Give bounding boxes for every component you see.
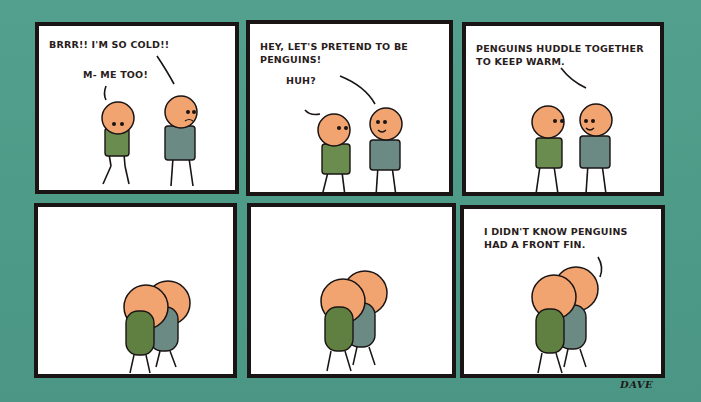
comic-page: BRRR!! I'M SO COLD!! M- ME TOO! HEY, LET… bbox=[0, 0, 701, 402]
panel-2-speech-huh: HUH? bbox=[286, 74, 316, 87]
panel-1-art bbox=[39, 26, 239, 194]
panel-6: I DIDN'T KNOW PENGUINS HAD A FRONT FIN. bbox=[460, 205, 665, 378]
panel-1-speech-cold: BRRR!! I'M SO COLD!! bbox=[49, 38, 169, 51]
panel-3-speech-huddle: PENGUINS HUDDLE TOGETHER TO KEEP WARM. bbox=[476, 42, 644, 68]
panel-3: PENGUINS HUDDLE TOGETHER TO KEEP WARM. bbox=[462, 22, 664, 196]
panel-1-speech-me-too: M- ME TOO! bbox=[83, 68, 148, 81]
artist-signature: DAVE bbox=[620, 379, 653, 390]
panel-2: HEY, LET'S PRETEND TO BE PENGUINS! HUH? bbox=[246, 20, 453, 196]
panel-5 bbox=[247, 203, 456, 378]
panel-1: BRRR!! I'M SO COLD!! M- ME TOO! bbox=[35, 22, 239, 194]
panel-5-art bbox=[251, 207, 456, 378]
panel-4-art bbox=[38, 207, 237, 378]
panel-6-speech-front-fin: I DIDN'T KNOW PENGUINS HAD A FRONT FIN. bbox=[484, 225, 628, 251]
panel-2-speech-penguins: HEY, LET'S PRETEND TO BE PENGUINS! bbox=[260, 40, 408, 66]
panel-4 bbox=[34, 203, 237, 378]
